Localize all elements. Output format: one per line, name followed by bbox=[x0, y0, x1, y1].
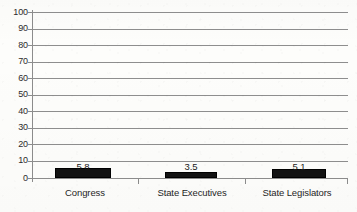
bar-state-executives bbox=[165, 172, 217, 178]
y-axis-tick-80 bbox=[28, 45, 32, 46]
y-axis-tick-10 bbox=[28, 161, 32, 162]
y-axis-tick-30 bbox=[28, 128, 32, 129]
bar-value-state-executives: 3.5 bbox=[165, 162, 217, 172]
x-axis-label-congress: Congress bbox=[35, 188, 135, 198]
gridline-40 bbox=[32, 111, 348, 112]
bar-value-congress: 5.8 bbox=[55, 162, 111, 172]
y-axis-tick-20 bbox=[28, 144, 32, 145]
gridline-80 bbox=[32, 45, 348, 46]
category-separator-2 bbox=[245, 179, 246, 184]
y-axis-tick-label-30: 30 bbox=[4, 123, 28, 132]
y-axis-tick-label-90: 90 bbox=[4, 24, 28, 33]
y-axis-tick-90 bbox=[28, 29, 32, 30]
y-axis-tick-label-70: 70 bbox=[4, 57, 28, 66]
gridline-50 bbox=[32, 95, 348, 96]
bar-chart: 100 90 80 70 60 50 40 30 20 10 0 5.8 3.5… bbox=[0, 0, 357, 212]
gridline-20 bbox=[32, 144, 348, 145]
y-axis-tick-label-40: 40 bbox=[4, 107, 28, 116]
gridline-100 bbox=[32, 12, 348, 13]
y-axis-tick-0 bbox=[28, 178, 32, 179]
y-axis-tick-60 bbox=[28, 78, 32, 79]
y-axis-tick-40 bbox=[28, 111, 32, 112]
bar-value-state-legislators: 5.1 bbox=[272, 162, 326, 172]
y-axis-tick-label-20: 20 bbox=[4, 140, 28, 149]
y-axis-tick-70 bbox=[28, 62, 32, 63]
y-axis-tick-label-60: 60 bbox=[4, 74, 28, 83]
category-separator-3 bbox=[347, 179, 348, 184]
y-axis-tick-label-80: 80 bbox=[4, 41, 28, 50]
y-axis-tick-label-0: 0 bbox=[4, 174, 28, 183]
x-axis-label-state-legislators: State Legislators bbox=[246, 188, 348, 198]
gridline-70 bbox=[32, 62, 348, 63]
y-axis-tick-label-100: 100 bbox=[4, 8, 28, 17]
gridline-90 bbox=[32, 29, 348, 30]
y-axis-tick-100 bbox=[28, 12, 32, 13]
y-axis-tick-label-10: 10 bbox=[4, 156, 28, 165]
category-separator-1 bbox=[138, 179, 139, 184]
y-axis-tick-label-50: 50 bbox=[4, 90, 28, 99]
y-axis-tick-50 bbox=[28, 95, 32, 96]
gridline-0 bbox=[32, 178, 348, 179]
gridline-30 bbox=[32, 128, 348, 129]
gridline-60 bbox=[32, 78, 348, 79]
x-axis-label-state-executives: State Executives bbox=[140, 188, 244, 198]
plot-area: 5.8 3.5 5.1 bbox=[32, 12, 348, 178]
